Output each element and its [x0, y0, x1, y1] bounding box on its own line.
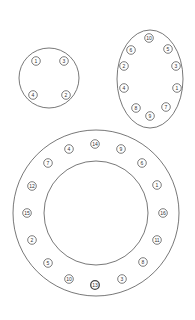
bolt-sequence-label: 11 [154, 237, 159, 243]
flange-inner-outline [44, 161, 148, 265]
flange-outer-outline [13, 130, 179, 296]
bolt-sequence-label: 3 [63, 58, 66, 64]
bolt-sequence-label: 1 [156, 182, 159, 188]
bolt-marker: 2 [28, 236, 37, 245]
bolt-marker: 5 [44, 259, 53, 268]
bolt-marker: 15 [23, 209, 32, 218]
bolt-pattern-diagram: 1342 10652341879 14497612115162115810313 [0, 0, 195, 320]
bolt-marker: 8 [132, 104, 141, 113]
ten-bolt-oval-flange: 10652341879 [117, 30, 183, 128]
bolt-marker: 1 [173, 84, 182, 93]
bolt-marker: 3 [60, 57, 69, 66]
bolt-marker: 16 [159, 209, 168, 218]
bolt-marker: 10 [145, 34, 154, 43]
bolt-sequence-label: 5 [167, 46, 170, 52]
bolt-sequence-label: 2 [123, 63, 126, 69]
bolt-marker: 14 [91, 140, 100, 149]
bolt-sequence-label: 13 [92, 282, 98, 288]
four-bolt-circle-flange: 1342 [19, 48, 79, 108]
bolt-sequence-label: 8 [135, 105, 138, 111]
bolt-sequence-label: 3 [121, 276, 124, 282]
bolt-marker: 13 [91, 281, 100, 290]
flange-outline [19, 48, 79, 108]
bolt-marker: 8 [139, 258, 148, 267]
bolt-marker: 1 [153, 181, 162, 190]
bolt-sequence-label: 5 [47, 260, 50, 266]
bolt-sequence-label: 7 [165, 104, 168, 110]
bolt-marker: 9 [146, 112, 155, 121]
bolt-marker: 7 [44, 159, 53, 168]
bolt-sequence-label: 1 [176, 85, 179, 91]
bolt-marker: 4 [65, 145, 74, 154]
sixteen-bolt-ring-flange: 14497612115162115810313 [13, 130, 179, 296]
bolt-sequence-label: 1 [35, 58, 38, 64]
bolt-sequence-label: 15 [24, 210, 30, 216]
bolt-marker: 10 [65, 275, 74, 284]
bolt-sequence-label: 14 [92, 141, 98, 147]
bolt-sequence-label: 4 [32, 92, 35, 98]
bolt-marker: 11 [153, 236, 162, 245]
bolt-sequence-label: 7 [47, 160, 50, 166]
bolt-marker: 9 [117, 145, 126, 154]
bolt-sequence-label: 4 [68, 146, 71, 152]
bolt-marker: 7 [162, 103, 171, 112]
bolt-marker: 6 [127, 46, 136, 55]
bolt-sequence-label: 12 [29, 183, 35, 189]
bolt-marker: 2 [62, 91, 71, 100]
bolt-sequence-label: 6 [130, 47, 133, 53]
bolt-sequence-label: 9 [120, 146, 123, 152]
bolt-marker: 2 [120, 62, 129, 71]
bolt-marker: 12 [28, 182, 37, 191]
bolt-marker: 3 [118, 275, 127, 284]
bolt-sequence-label: 6 [141, 160, 144, 166]
bolt-sequence-label: 2 [31, 237, 34, 243]
bolt-sequence-label: 4 [123, 85, 126, 91]
bolt-sequence-label: 10 [146, 35, 152, 41]
bolt-marker: 3 [172, 62, 181, 71]
bolt-sequence-label: 8 [142, 259, 145, 265]
bolt-sequence-label: 16 [160, 210, 166, 216]
bolt-sequence-label: 3 [175, 63, 178, 69]
bolt-sequence-label: 9 [149, 113, 152, 119]
bolt-marker: 4 [29, 91, 38, 100]
bolt-sequence-label: 2 [65, 92, 68, 98]
bolt-marker: 5 [164, 45, 173, 54]
bolt-marker: 6 [138, 159, 147, 168]
bolt-sequence-label: 10 [66, 276, 72, 282]
bolt-marker: 1 [32, 57, 41, 66]
bolt-marker: 4 [120, 84, 129, 93]
